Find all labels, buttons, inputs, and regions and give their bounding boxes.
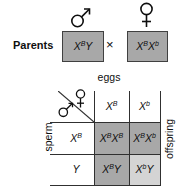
grid-hline-2 [50,154,161,155]
female-icon [139,2,154,29]
egg-allele-header-2: Xb [129,91,160,122]
punnett-square-figure: Parents XBY × XBXb eggs [0,0,179,193]
punnett-cell-r2c2: XbY [129,154,160,185]
male-parent-genotype-box: XBY [62,31,104,62]
male-parent-genotype: XBY [74,41,93,52]
grid-vline-1 [94,91,95,185]
punnett-cell-r1c2: XBXb [129,122,160,154]
sperm-allele-header-2: Y [58,154,94,185]
parents-label: Parents [13,39,53,51]
offspring-label: offspring [161,99,177,179]
sperm-label: sperm [40,107,56,167]
corner-female-icon [75,89,86,109]
male-icon [70,7,92,29]
corner-male-icon [58,102,75,118]
punnett-cell-r1c1: XBXB [94,122,129,154]
eggs-label: eggs [58,71,160,83]
female-parent-genotype-box: XBXb [127,31,168,62]
cross-symbol: × [106,37,114,52]
punnett-cell-r2c1: XBY [94,154,129,185]
grid-vline-right [160,91,161,185]
sperm-allele-header-1: XB [58,122,94,154]
grid-hline-bottom [50,185,161,186]
grid-hline-1 [50,122,161,123]
grid-vline-2 [129,91,130,185]
female-parent-genotype: XBXb [136,41,159,52]
egg-allele-header-1: XB [94,91,129,122]
